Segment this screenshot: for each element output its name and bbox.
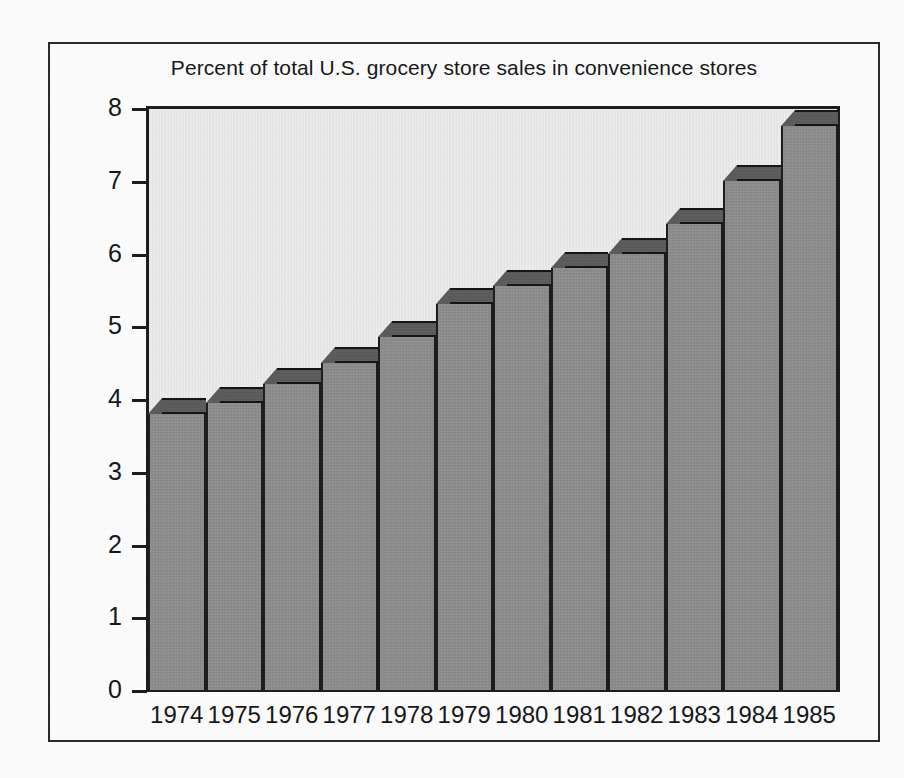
bar-bevel-1979 (436, 288, 450, 304)
bar-bevel-1977 (321, 347, 335, 363)
bar-top-face-1984 (737, 165, 781, 181)
y-tick-mark (132, 545, 147, 548)
y-tick-7: 7 (86, 181, 158, 183)
bar-1981 (551, 268, 609, 690)
figure-page: Percent of total U.S. grocery store sale… (0, 0, 904, 778)
bar-bevel-1976 (263, 368, 277, 384)
bar-top-face-1975 (220, 387, 264, 403)
y-tick-mark (132, 326, 147, 329)
y-tick-mark (132, 108, 147, 111)
bar-bevel-1974 (148, 398, 162, 414)
bar-1983 (666, 224, 724, 690)
y-tick-mark (132, 181, 147, 184)
bar-top-face-1983 (680, 208, 724, 224)
bar-1978 (378, 337, 436, 690)
bar-1979 (436, 304, 494, 690)
y-tick-label: 1 (86, 602, 122, 630)
bar-bevel-1981 (551, 252, 565, 268)
bar-top-face-1979 (450, 288, 494, 304)
bar-bevel-1975 (206, 387, 220, 403)
y-tick-mark (132, 690, 147, 693)
bar-1985 (781, 126, 839, 690)
y-tick-mark (132, 254, 147, 257)
bar-top-face-1985 (795, 110, 839, 126)
y-tick-6: 6 (86, 254, 158, 256)
y-tick-label: 5 (86, 311, 122, 339)
bar-bevel-1983 (666, 208, 680, 224)
bar-bevel-1978 (378, 321, 392, 337)
bar-top-face-1978 (392, 321, 436, 337)
bar-1976 (263, 384, 321, 690)
bar-bevel-1982 (608, 238, 622, 254)
y-tick-label: 8 (86, 93, 122, 121)
y-tick-8: 8 (86, 108, 158, 110)
bar-top-face-1980 (507, 270, 551, 286)
y-tick-label: 4 (86, 384, 122, 412)
y-tick-mark (132, 617, 147, 620)
bar-bevel-1980 (493, 270, 507, 286)
y-tick-label: 6 (86, 239, 122, 267)
y-tick-label: 0 (86, 675, 122, 703)
y-tick-mark (132, 399, 147, 402)
y-tick-mark (132, 472, 147, 475)
bar-1975 (206, 403, 264, 690)
bar-1977 (321, 363, 379, 690)
bar-bevel-1985 (781, 110, 795, 126)
bar-1980 (493, 286, 551, 690)
y-tick-label: 2 (86, 530, 122, 558)
plot-top-rule (148, 106, 840, 109)
bar-top-face-1974 (162, 398, 206, 414)
chart-title: Percent of total U.S. grocery store sale… (48, 56, 880, 80)
y-tick-0: 0 (86, 690, 158, 692)
bar-1982 (608, 254, 666, 691)
bar-1984 (723, 181, 781, 690)
bar-top-face-1982 (622, 238, 666, 254)
bar-1974 (148, 414, 206, 690)
bar-top-face-1981 (565, 252, 609, 268)
y-tick-5: 5 (86, 326, 158, 328)
y-tick-label: 7 (86, 166, 122, 194)
bar-bevel-1984 (723, 165, 737, 181)
bar-top-face-1976 (277, 368, 321, 384)
y-tick-label: 3 (86, 457, 122, 485)
bar-top-face-1977 (335, 347, 379, 363)
x-tick-label-1985: 1985 (775, 700, 845, 730)
